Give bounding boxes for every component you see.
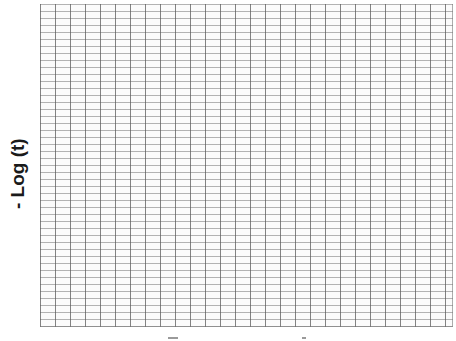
x-axis-label-fragment bbox=[302, 337, 306, 339]
y-axis-label: - Log (t) bbox=[6, 153, 30, 177]
graph-paper-grid bbox=[40, 4, 453, 327]
y-axis-label-text: - Log (t) bbox=[6, 138, 30, 209]
x-axis-label-fragment bbox=[168, 337, 178, 339]
